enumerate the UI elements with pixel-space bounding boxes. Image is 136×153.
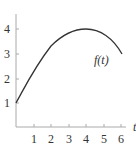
x-tick-label: 2 — [48, 132, 54, 146]
y-tick-label: 2 — [4, 72, 10, 86]
y-tick-label: 3 — [4, 47, 10, 61]
x-tick-label: 3 — [66, 132, 72, 146]
curve-label: f(t) — [94, 53, 109, 67]
x-axis-label: t — [133, 120, 136, 134]
x-tick-label: 5 — [101, 132, 107, 146]
chart: 1 2 3 4 1 2 3 4 5 6 t f(t) — [0, 0, 136, 153]
y-tick-label: 4 — [4, 22, 10, 36]
x-tick-label: 1 — [31, 132, 37, 146]
x-tick-label: 4 — [83, 132, 89, 146]
y-tick-label: 1 — [4, 96, 10, 110]
x-tick-label: 6 — [118, 132, 124, 146]
